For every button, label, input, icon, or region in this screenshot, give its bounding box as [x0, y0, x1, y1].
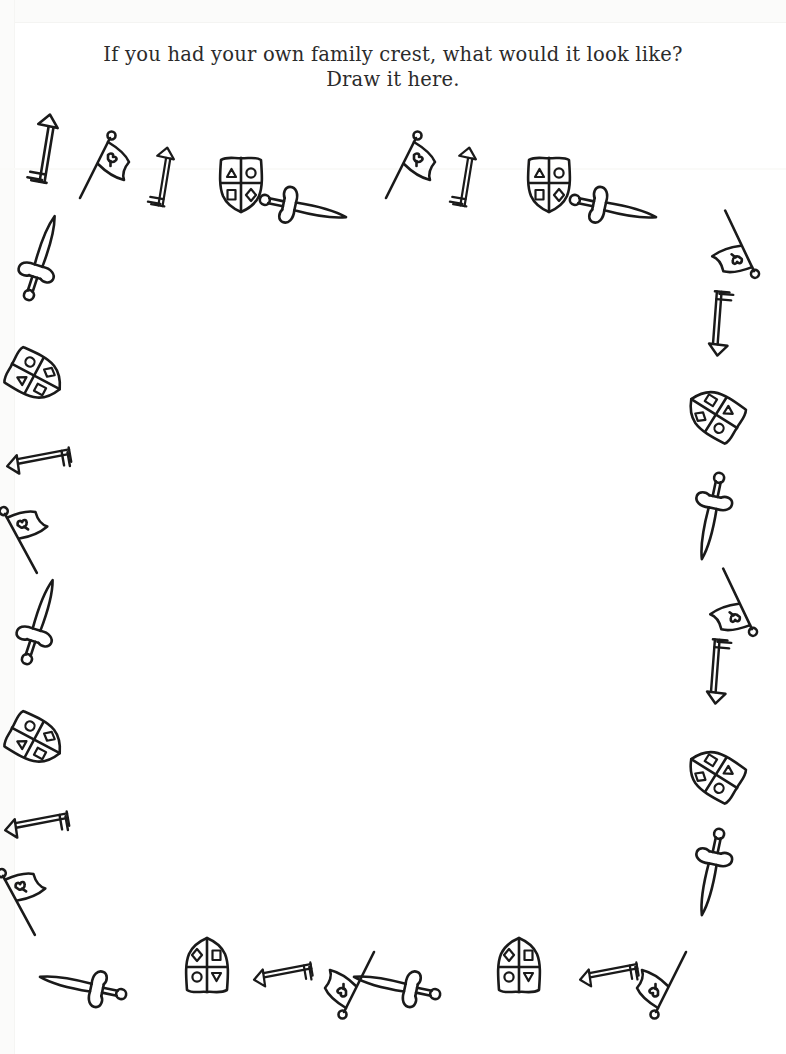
prompt-line-1: If you had your own family crest, what w… [0, 42, 786, 67]
sword-icon [29, 951, 137, 1021]
banner-flag-icon [632, 948, 694, 1022]
scan-edge-top [0, 0, 786, 23]
heraldic-shield-icon [492, 934, 546, 998]
heraldic-shield-icon [0, 337, 76, 415]
heraldic-shield-icon [674, 374, 757, 454]
heraldic-shield-icon [180, 934, 234, 998]
banner-flag-icon [378, 128, 440, 202]
sword-icon [676, 462, 746, 570]
banner-flag-icon [0, 850, 69, 943]
heraldic-shield-icon [0, 701, 76, 779]
worksheet-prompt: If you had your own family crest, what w… [0, 42, 786, 93]
heraldic-shield-icon [674, 734, 757, 814]
worksheet-page: If you had your own family crest, what w… [0, 0, 786, 1054]
sword-icon [676, 818, 746, 926]
sword-icon [0, 567, 78, 678]
banner-flag-icon [72, 128, 134, 202]
banner-flag-icon [689, 202, 785, 296]
arrow-icon [245, 933, 324, 1012]
sword-icon [2, 203, 80, 314]
arrow-icon [123, 139, 202, 218]
drawing-area[interactable] [110, 210, 676, 910]
prompt-line-2: Draw it here. [0, 67, 786, 92]
